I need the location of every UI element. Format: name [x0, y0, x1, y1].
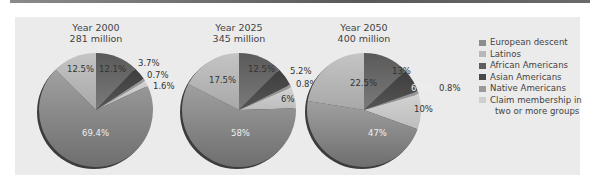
pie-2025-year: Year 2025	[189, 22, 289, 33]
legend-swatch-native	[479, 86, 486, 92]
legend-label-latinos: Latinos	[490, 49, 521, 60]
pie-2000-label-multi: 1.6%	[153, 81, 175, 91]
pie-2050-label-african: 13%	[392, 66, 411, 76]
pie-2000-label-european: 69.4%	[82, 128, 109, 138]
pie-2025-label-african: 12.5%	[248, 64, 275, 74]
legend-item-latinos: Latinos	[479, 49, 582, 61]
pie-2050-label-asian: 6.7%	[411, 83, 433, 93]
pie-2025-title: Year 2025 345 million	[189, 22, 289, 44]
pie-2025-label-latinos: 17.5%	[209, 75, 236, 85]
pie-2000-label-native: 0.7%	[147, 70, 169, 80]
legend-item-multi: Claim membership in two or more groups	[479, 95, 582, 117]
legend-label-european: European descent	[490, 37, 568, 48]
pie-2000-year: Year 2000	[46, 22, 146, 33]
legend-swatch-latinos	[479, 51, 486, 57]
pie-2000-title: Year 2000 281 million	[46, 22, 146, 44]
pie-2050-year: Year 2050	[314, 22, 414, 33]
pie-2050-label-native: 0.8%	[439, 83, 461, 93]
pie-2050-title: Year 2050 400 million	[314, 22, 414, 44]
pie-chart-2000	[36, 52, 158, 170]
pie-2000-label-latinos: 12.5%	[67, 64, 94, 74]
legend-swatch-european	[479, 40, 486, 46]
legend-swatch-asian	[479, 74, 486, 80]
legend-label-multi: Claim membership in two or more groups	[490, 95, 582, 117]
top-rule	[10, 0, 590, 3]
legend-item-european: European descent	[479, 37, 582, 49]
pie-2000-label-african: 12.1%	[99, 64, 126, 74]
pie-chart-2025	[179, 52, 301, 170]
legend-swatch-multi	[479, 97, 486, 103]
pie-2025-label-european: 58%	[231, 128, 250, 138]
legend-item-african: African Americans	[479, 60, 582, 72]
legend-label-native: Native Americans	[490, 83, 566, 94]
pie-2000-label-asian: 3.7%	[138, 58, 160, 68]
legend-item-asian: Asian Americans	[479, 72, 582, 84]
legend-label-african: African Americans	[490, 60, 568, 71]
pie-2025-label-multi: 6%	[281, 94, 295, 104]
pie-2050-label-latinos: 22.5%	[350, 78, 377, 88]
pie-2050-label-multi: 10%	[414, 104, 433, 114]
pie-2050-label-european: 47%	[368, 128, 387, 138]
pie-2000-population: 281 million	[46, 33, 146, 44]
legend-label-asian: Asian Americans	[490, 72, 562, 83]
legend-swatch-african	[479, 63, 486, 69]
legend: European descent Latinos African America…	[479, 37, 582, 117]
pie-2050-population: 400 million	[314, 33, 414, 44]
legend-item-native: Native Americans	[479, 83, 582, 95]
pie-2025-population: 345 million	[189, 33, 289, 44]
